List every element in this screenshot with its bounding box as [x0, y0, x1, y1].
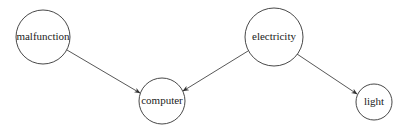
node-light: light	[356, 84, 392, 120]
node-electricity: electricity	[245, 8, 303, 66]
node-label: computer	[141, 94, 183, 106]
node-malfunction: malfunction	[16, 10, 70, 64]
node-label: electricity	[252, 30, 296, 42]
edge-electricity-light	[297, 54, 357, 94]
causal-graph: malfunction computer electricity light	[0, 0, 400, 128]
edge-malfunction-computer	[67, 50, 140, 93]
node-label: malfunction	[16, 30, 70, 42]
edge-electricity-computer	[183, 51, 248, 91]
node-computer: computer	[139, 78, 185, 124]
node-label: light	[364, 95, 384, 107]
